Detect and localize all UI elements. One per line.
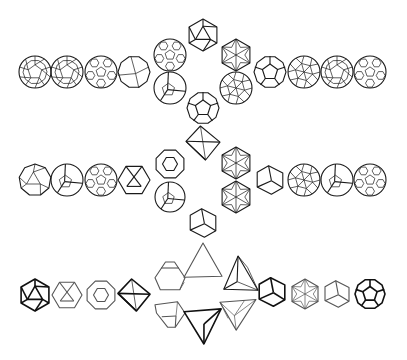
sphere-faceted-polyhedron-icon <box>321 56 353 88</box>
cube-polyhedron-icon <box>190 209 216 238</box>
cube-polyhedron-icon <box>325 281 349 308</box>
sphere-tri-polyhedron-icon <box>288 164 320 196</box>
sphere-hex-polyhedron-icon <box>85 164 117 196</box>
truncated-oct-polyhedron-icon <box>87 281 115 309</box>
tetra-down-star-polyhedron-icon <box>220 300 256 331</box>
row-3-center-cluster <box>155 243 258 344</box>
dodeca-round-polyhedron-icon <box>155 182 185 212</box>
cube-polyhedron-icon <box>259 278 285 307</box>
polyhedra-diagram <box>0 0 407 360</box>
polyhedra-canvas <box>0 0 407 360</box>
truncated-oct-polyhedron-icon <box>156 150 184 178</box>
dodecahedron-polyhedron-icon <box>254 56 286 87</box>
cuboct-polyhedron-icon <box>52 282 82 308</box>
row-3-group <box>21 243 385 344</box>
row-2-group <box>19 126 386 237</box>
octahedron-polyhedron-icon <box>186 126 220 160</box>
dodeca-round-polyhedron-icon <box>321 164 353 196</box>
sphere-hex-polyhedron-icon <box>85 56 117 88</box>
triangle-up-polyhedron-icon <box>184 243 222 277</box>
row-2-center-cluster <box>155 126 250 237</box>
hexagon-star-polyhedron-icon <box>222 39 250 71</box>
sphere-hex-polyhedron-icon <box>154 39 186 71</box>
sphere-faceted-polyhedron-icon <box>51 56 83 88</box>
icosahedron-polyhedron-icon <box>21 279 49 311</box>
hexagon-star-polyhedron-icon <box>222 147 250 179</box>
row-2-left-cluster <box>19 164 150 196</box>
cuboct-polyhedron-icon <box>118 166 150 193</box>
cube-polyhedron-icon <box>257 166 283 195</box>
trunc-tetra-down-polyhedron-icon <box>155 302 185 328</box>
icosa-round-polyhedron-icon <box>19 164 51 195</box>
row-1-center-cluster <box>154 19 252 123</box>
sphere-tri-polyhedron-icon <box>288 56 320 88</box>
dodeca-round-polyhedron-icon <box>51 164 83 196</box>
dodeca-round-polyhedron-icon <box>154 72 186 104</box>
sphere-faceted-polyhedron-icon <box>19 56 51 88</box>
row-3-right-cluster <box>259 278 385 309</box>
sphere-hex-polyhedron-icon <box>354 56 386 88</box>
dodecahedron-polyhedron-icon <box>355 279 385 308</box>
hexagon-star-polyhedron-icon <box>292 279 318 309</box>
icosahedron-polyhedron-icon <box>189 19 217 51</box>
row-1-group <box>19 19 386 123</box>
hexagon-star-polyhedron-icon <box>222 181 250 213</box>
dodecahedron-polyhedron-icon <box>187 92 219 123</box>
sphere-tri-polyhedron-icon <box>220 72 252 104</box>
octahedron-polyhedron-icon <box>118 279 150 311</box>
trunc-tetra-polyhedron-icon <box>155 262 185 290</box>
row-3-left-cluster <box>21 279 150 311</box>
row-1-right-cluster <box>254 56 386 88</box>
tetra-side-polyhedron-icon <box>224 256 258 290</box>
row-2-right-cluster <box>257 164 386 196</box>
row-1-left-cluster <box>19 56 150 88</box>
sphere-hex-polyhedron-icon <box>354 164 386 196</box>
sphere-coarse-polyhedron-icon <box>118 56 150 88</box>
triangle-down-polyhedron-icon <box>184 309 221 344</box>
